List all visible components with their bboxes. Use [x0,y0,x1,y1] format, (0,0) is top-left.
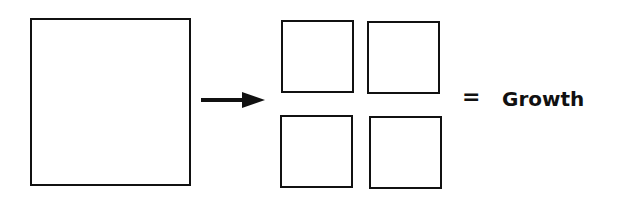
small-square-top-right [367,21,440,94]
right-arrow-icon [200,91,266,109]
small-square-top-left [281,20,354,93]
growth-label: Growth [502,89,584,109]
small-square-bottom-left [280,115,353,188]
small-square-bottom-right [369,116,442,189]
large-square [30,18,191,186]
equals-sign: = [462,86,480,108]
